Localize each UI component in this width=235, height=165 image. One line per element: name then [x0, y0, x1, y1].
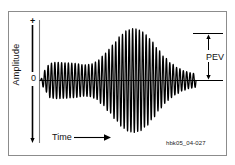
y-axis-positive-tick-label: + [30, 17, 35, 26]
figure-id-caption: hbk05_04-027 [166, 140, 206, 146]
y-axis-title: Amplitude [12, 35, 21, 95]
time-axis-arrow [74, 134, 111, 140]
figure-container: Amplitude + 0 Time PEV hbk05_04-027 [0, 0, 235, 165]
pev-annotation-label: PEV [206, 53, 224, 62]
x-axis-title: Time [52, 133, 72, 142]
amplitude-scale-bar-lower [30, 86, 34, 143]
y-axis-zero-tick-label: 0 [31, 74, 36, 83]
waveform-trace [41, 29, 197, 133]
